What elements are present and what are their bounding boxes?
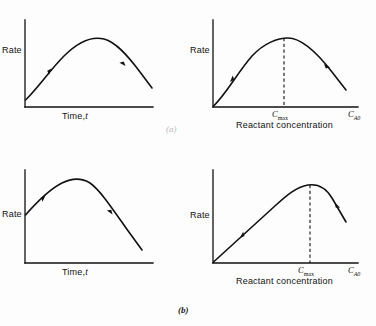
- y-axis-label: Rate: [2, 45, 22, 55]
- x-axis-label: Time,t: [62, 111, 88, 121]
- x-axis-label: Time,t: [62, 267, 88, 277]
- cmax-tick-label: Cmax: [298, 265, 314, 277]
- ca0-subscript: A0: [354, 115, 361, 121]
- ca0-tick-label: CA0: [348, 109, 360, 121]
- panel-a-time-plot: [0, 8, 188, 128]
- panel-b-concentration-chart: Rate Cmax CA0 Reactant concentration: [188, 158, 376, 283]
- x-axis-label: Reactant concentration: [236, 276, 333, 286]
- y-axis-label: Rate: [2, 209, 22, 219]
- x-axis-label: Reactant concentration: [236, 120, 333, 130]
- rate-curve: [214, 38, 347, 106]
- y-axis-label: Rate: [190, 45, 210, 55]
- part-b-label: (b): [178, 305, 189, 315]
- x-axis-label-text: Time,: [62, 267, 85, 277]
- panel-a-concentration-chart: Rate Cmax CA0 Reactant concentration: [188, 8, 376, 128]
- rate-curve: [26, 38, 153, 100]
- y-axis-label: Rate: [190, 210, 210, 220]
- panel-b-time-plot: [0, 158, 188, 283]
- figure-root: Rate Time,t Rate Cmax CA0 Reactant conce…: [0, 0, 376, 326]
- x-axis-symbol: t: [85, 111, 88, 121]
- panel-b-time-chart: Rate Time,t: [0, 158, 188, 283]
- x-axis-label-text: Time,: [62, 111, 85, 121]
- ca0-subscript: A0: [354, 271, 361, 277]
- cmax-tick-label: Cmax: [272, 109, 288, 121]
- ca0-tick-label: CA0: [348, 265, 360, 277]
- rate-curve: [26, 179, 143, 250]
- part-a-label: (a): [166, 124, 177, 134]
- x-axis-symbol: t: [85, 267, 88, 277]
- rate-curve: [214, 185, 347, 262]
- arrow-falling-icon: [119, 60, 126, 68]
- panel-a-time-chart: Rate Time,t: [0, 8, 188, 128]
